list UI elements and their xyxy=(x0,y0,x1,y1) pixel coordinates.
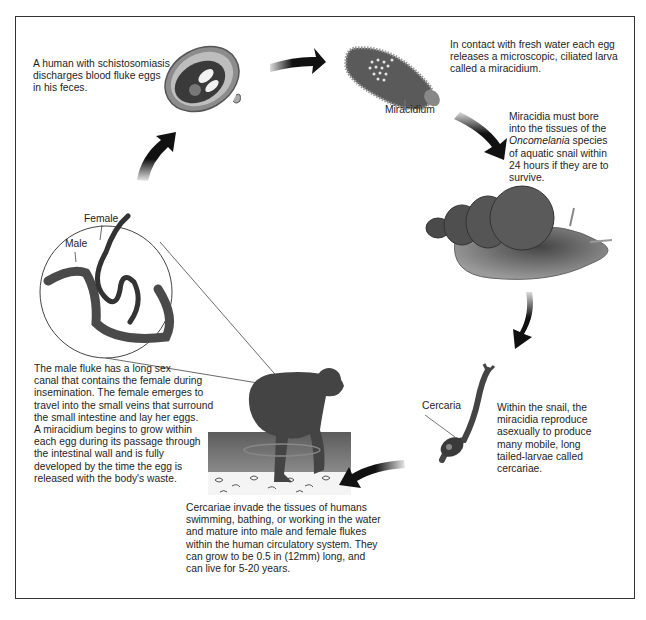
female-label: Female xyxy=(84,213,118,224)
text-line: survive. xyxy=(509,172,609,184)
text-line: in his feces. xyxy=(33,82,170,94)
text-line: insemination. The female emerges to xyxy=(34,387,213,399)
text-line: A miracidium begins to grow within xyxy=(34,424,213,436)
text-line: Cercariae invade the tissues of humans xyxy=(186,502,381,514)
text-line: Within the snail, the xyxy=(497,402,591,414)
text-fragment: species xyxy=(570,135,608,146)
text-line: In contact with fresh water each egg xyxy=(450,39,618,51)
text-line: called a miracidium. xyxy=(450,63,618,75)
text-line: can grow to be 0.5 in (12mm) long, and xyxy=(186,551,381,563)
text-line: miracidia reproduce xyxy=(497,414,591,426)
arrow-human-to-egg-icon xyxy=(137,132,176,181)
step-eggs-text: A human with schistosomiasis discharges … xyxy=(33,58,170,95)
species-name: Oncomelania xyxy=(509,135,570,146)
step-miracidium-release-text: In contact with fresh water each egg rel… xyxy=(450,39,618,76)
text-line: cercariae. xyxy=(497,463,591,475)
male-label: Male xyxy=(65,238,87,249)
text-line: discharges blood fluke eggs xyxy=(33,70,170,82)
text-line: within the human circulatory system. The… xyxy=(186,539,381,551)
miracidium-icon xyxy=(346,48,443,110)
text-line: The male fluke has a long sex xyxy=(34,363,213,375)
text-line: asexually to produce xyxy=(497,426,591,438)
text-line: Miracidia must bore xyxy=(509,111,609,123)
text-line: many mobile, long xyxy=(497,439,591,451)
text-line: 24 hours if they are to xyxy=(509,160,609,172)
text-line: the small intestine and lay her eggs. xyxy=(34,412,213,424)
text-line: A human with schistosomiasis xyxy=(33,58,170,70)
text-line: the intestinal wall and is fully xyxy=(34,448,213,460)
text-line: travel into the small veins that surroun… xyxy=(34,400,213,412)
step-fluke-mating-text: The male fluke has a long sex canal that… xyxy=(34,363,213,485)
cercaria-icon xyxy=(425,364,494,461)
human-wading-icon xyxy=(208,368,351,495)
arrow-snail-to-cercaria-icon xyxy=(513,292,533,349)
text-line: released with the body's waste. xyxy=(34,473,213,485)
text-line: into the tissues of the xyxy=(509,123,609,135)
text-line: of aquatic snail within xyxy=(509,148,609,160)
text-line: can live for 5-20 years. xyxy=(186,563,381,575)
text-line: tailed-larvae called xyxy=(497,451,591,463)
text-line: canal that contains the female during xyxy=(34,375,213,387)
text-line: and mature into male and female flukes xyxy=(186,526,381,538)
text-line: releases a microscopic, ciliated larva xyxy=(450,51,618,63)
snail-icon xyxy=(426,186,612,279)
arrow-egg-to-miracidium-icon xyxy=(270,48,326,74)
step-human-invasion-text: Cercariae invade the tissues of humans s… xyxy=(186,502,381,575)
step-cercariae-text: Within the snail, the miracidia reproduc… xyxy=(497,402,591,475)
miracidium-label: Miracidium xyxy=(385,104,435,115)
text-line: Oncomelania species xyxy=(509,135,609,147)
cercaria-label: Cercaria xyxy=(422,400,461,411)
text-line: swimming, bathing, or working in the wat… xyxy=(186,514,381,526)
text-line: developed by the time the egg is xyxy=(34,461,213,473)
step-snail-infection-text: Miracidia must bore into the tissues of … xyxy=(509,111,609,184)
text-line: each egg during its passage through xyxy=(34,436,213,448)
arrow-miracidium-to-snail-icon xyxy=(454,112,507,160)
